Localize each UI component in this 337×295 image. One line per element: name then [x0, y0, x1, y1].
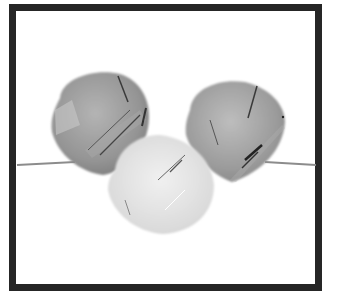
- bead-photo: [0, 0, 337, 295]
- wire-right: [265, 162, 316, 165]
- wire-left: [17, 162, 75, 165]
